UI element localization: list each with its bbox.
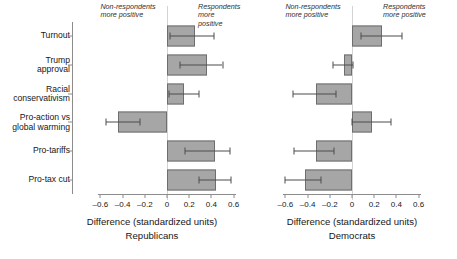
panel-republicans: –0.6–0.4–0.200.20.40.6 Difference (stand…: [72, 0, 232, 259]
error-bar-cap: [360, 33, 361, 40]
x-axis-tick-label: 0.4: [391, 200, 402, 209]
x-axis-tick-label: 0.6: [413, 200, 424, 209]
y-axis-spine: [72, 22, 73, 194]
x-axis-tick: [100, 194, 101, 198]
x-axis-tick: [418, 194, 419, 198]
error-bar: [180, 65, 222, 66]
plot-area-democrats: [257, 22, 447, 194]
x-axis-tick: [396, 194, 397, 198]
x-axis-tick-label: 0: [165, 200, 169, 209]
x-axis-tick: [167, 194, 168, 198]
error-bar-cap: [230, 148, 231, 155]
category-label: Trump approval: [0, 56, 70, 75]
error-bar: [285, 179, 321, 180]
category-axis-labels: TurnoutTrump approvalRacial conservativi…: [0, 22, 70, 194]
annotation-respondents-more-positive: Respondents more positive: [383, 3, 426, 20]
x-axis-tick: [307, 194, 308, 198]
error-bar: [169, 93, 199, 94]
category-label: Pro-tariffs: [0, 146, 70, 155]
plot-area-republicans: [72, 22, 232, 194]
annotation-respondents-more-positive: Respondents more positive: [198, 3, 240, 28]
x-axis-tick-label: –0.2: [137, 200, 153, 209]
error-bar: [294, 151, 334, 152]
error-bar-cap: [390, 119, 391, 126]
x-axis-tick: [285, 194, 286, 198]
x-axis-tick-label: –0.6: [278, 200, 294, 209]
y-axis-tick: [68, 36, 72, 37]
category-label: Pro-tax cut: [0, 175, 70, 184]
error-bar-cap: [285, 176, 286, 183]
error-bar: [293, 93, 336, 94]
error-bar-cap: [170, 33, 171, 40]
x-axis-tick-label: 0.2: [369, 200, 380, 209]
y-axis-tick: [68, 65, 72, 66]
x-axis-republicans: –0.6–0.4–0.200.20.40.6: [72, 194, 232, 195]
x-axis-tick: [144, 194, 145, 198]
error-bar-cap: [333, 62, 334, 69]
x-axis-tick-label: –0.6: [93, 200, 109, 209]
x-axis-tick: [211, 194, 212, 198]
error-bar-cap: [199, 176, 200, 183]
x-axis-democrats: –0.6–0.4–0.200.20.40.6: [257, 194, 447, 195]
x-axis-tick: [374, 194, 375, 198]
error-bar: [106, 122, 140, 123]
error-bar-cap: [336, 90, 337, 97]
category-label: Turnout: [0, 32, 70, 41]
x-axis-title-democrats: Difference (standardized units): [257, 216, 447, 227]
error-bar-cap: [401, 33, 402, 40]
x-axis-tick: [189, 194, 190, 198]
x-axis-tick-label: 0.2: [184, 200, 195, 209]
error-bar-cap: [169, 90, 170, 97]
error-bar-cap: [184, 148, 185, 155]
category-label: Pro-action vs global warming: [0, 113, 70, 132]
y-axis-tick: [68, 93, 72, 94]
error-bar: [352, 122, 391, 123]
figure: TurnoutTrump approvalRacial conservativi…: [0, 0, 457, 259]
error-bar: [199, 179, 231, 180]
error-bar: [170, 36, 213, 37]
y-axis-tick: [68, 179, 72, 180]
y-axis-tick: [68, 151, 72, 152]
error-bar-cap: [105, 119, 106, 126]
category-label: Racial conservativism: [0, 84, 70, 103]
error-bar: [361, 36, 402, 37]
error-bar-cap: [293, 90, 294, 97]
panel-title-republicans: Republicans: [72, 230, 232, 241]
error-bar-cap: [213, 33, 214, 40]
annotation-non-respondents-more-positive: Non-respondents more positive: [100, 3, 155, 20]
error-bar-cap: [320, 176, 321, 183]
x-axis-tick: [122, 194, 123, 198]
x-axis-tick-label: 0.4: [206, 200, 217, 209]
panel-title-democrats: Democrats: [257, 230, 447, 241]
panel-democrats: –0.6–0.4–0.200.20.40.6 Difference (stand…: [257, 0, 447, 259]
annotation-non-respondents-more-positive: Non-respondents more positive: [285, 3, 340, 20]
error-bar: [185, 151, 231, 152]
x-axis-tick-label: 0: [350, 200, 354, 209]
x-axis-tick: [352, 194, 353, 198]
y-axis-tick: [68, 122, 72, 123]
error-bar-cap: [199, 90, 200, 97]
x-axis-tick-label: –0.2: [322, 200, 338, 209]
error-bar-cap: [352, 119, 353, 126]
error-bar-cap: [140, 119, 141, 126]
error-bar-cap: [353, 62, 354, 69]
x-axis-tick: [233, 194, 234, 198]
error-bar-cap: [180, 62, 181, 69]
error-bar-cap: [222, 62, 223, 69]
x-axis-tick-label: –0.4: [300, 200, 316, 209]
error-bar-cap: [294, 148, 295, 155]
x-axis-tick-label: 0.6: [228, 200, 239, 209]
error-bar-cap: [231, 176, 232, 183]
x-axis-tick: [329, 194, 330, 198]
error-bar: [333, 65, 353, 66]
x-axis-tick-label: –0.4: [115, 200, 131, 209]
error-bar-cap: [334, 148, 335, 155]
x-axis-title-republicans: Difference (standardized units): [72, 216, 232, 227]
